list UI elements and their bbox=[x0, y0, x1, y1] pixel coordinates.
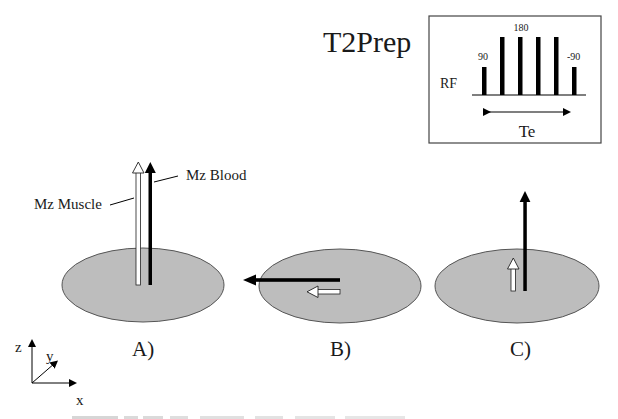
panel-a-label: A) bbox=[132, 337, 154, 361]
rf-label: RF bbox=[440, 76, 457, 91]
x-axis-label: x bbox=[76, 392, 84, 408]
blood-leader-line bbox=[154, 176, 178, 182]
pulse-180-3 bbox=[536, 37, 541, 95]
muscle-leader-line bbox=[110, 198, 134, 205]
z-axis-label: z bbox=[15, 339, 22, 355]
t2prep-diagram: T2Prep RF 90 180 -90 Te Mz Muscle bbox=[0, 0, 618, 419]
transverse-plane-disc bbox=[259, 249, 421, 323]
diagram-title: T2Prep bbox=[323, 25, 411, 58]
pulse-sequence-inset: RF 90 180 -90 Te bbox=[429, 16, 601, 143]
panel-c: C) bbox=[435, 191, 599, 361]
pulse-label-90: 90 bbox=[478, 51, 488, 62]
pulse-180-4 bbox=[554, 37, 559, 95]
pulse-label-180: 180 bbox=[514, 22, 529, 33]
panel-a: Mz Muscle Mz Blood A) bbox=[34, 162, 247, 361]
pulse-180-2 bbox=[518, 37, 523, 95]
transverse-plane-disc bbox=[62, 248, 224, 322]
pulse-label-minus-90: -90 bbox=[567, 51, 580, 62]
y-axis-label: y bbox=[46, 348, 54, 364]
y-axis bbox=[32, 363, 55, 383]
te-label: Te bbox=[519, 122, 536, 141]
panel-b: B) bbox=[243, 249, 421, 361]
mz-muscle-label: Mz Muscle bbox=[34, 196, 102, 212]
coordinate-axes: z y x bbox=[15, 339, 84, 408]
panel-c-label: C) bbox=[510, 337, 531, 361]
pulse-minus-90 bbox=[572, 67, 577, 95]
panel-b-label: B) bbox=[330, 337, 351, 361]
pulse-90 bbox=[482, 67, 487, 95]
transverse-plane-disc bbox=[435, 249, 599, 323]
pulse-180-1 bbox=[500, 37, 505, 95]
mz-blood-label: Mz Blood bbox=[186, 167, 247, 183]
